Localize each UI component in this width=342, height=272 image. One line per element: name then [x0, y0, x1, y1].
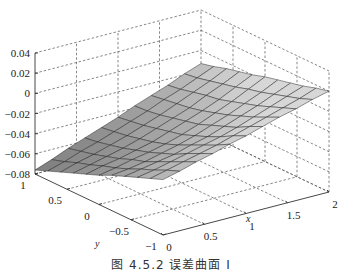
- x-tick-label: 2: [332, 198, 338, 210]
- z-tick-label: 0.02: [11, 67, 30, 79]
- y-tick-label: 0.5: [48, 194, 62, 206]
- z-tick-label: −0.02: [5, 108, 30, 120]
- z-axis-ticks: 0.040.020−0.02−0.04−0.06−0.08: [5, 47, 38, 180]
- z-tick-label: −0.04: [5, 128, 31, 140]
- y-tick-mark: [99, 204, 102, 205]
- x-tick-label: 0.5: [204, 230, 218, 242]
- y-axis-label: y: [94, 238, 100, 249]
- x-tick-label: 1.5: [287, 209, 301, 221]
- y-tick-label: 1: [20, 179, 26, 191]
- x-axis-label: x: [245, 213, 251, 224]
- error-surface: [35, 64, 329, 180]
- y-tick-mark: [67, 188, 70, 189]
- y-tick-label: 0: [84, 210, 90, 222]
- y-tick-label: −1: [145, 240, 157, 252]
- y-axis-ticks: 10.50−0.5−1: [20, 173, 166, 252]
- x-tick-label: 0: [166, 241, 172, 253]
- y-tick-label: −0.5: [109, 225, 129, 237]
- z-tick-label: −0.08: [5, 168, 31, 180]
- figure-caption: 图 4.5.2 误差曲面 I: [0, 255, 342, 272]
- y-tick-mark: [131, 219, 134, 220]
- floor-gridline: [131, 177, 297, 220]
- z-tick-label: −0.06: [5, 148, 31, 160]
- z-tick-label: 0.04: [11, 47, 31, 59]
- y-tick-mark: [163, 234, 166, 235]
- z-tick-label: 0: [25, 87, 31, 99]
